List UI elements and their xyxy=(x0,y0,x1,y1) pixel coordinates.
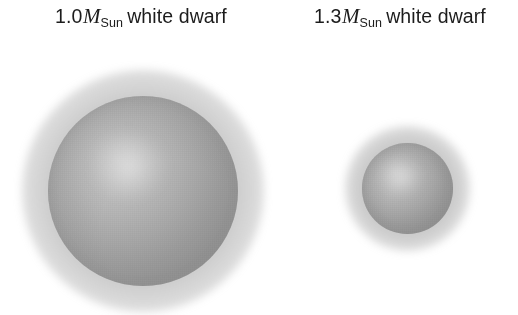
star-highlight-large xyxy=(92,134,166,198)
object-text-small: white dwarf xyxy=(383,5,486,27)
star-highlight-small xyxy=(382,160,420,193)
mass-subscript-large: Sun xyxy=(101,16,125,30)
white-dwarf-small xyxy=(362,143,453,234)
mass-value-large: 1.0 xyxy=(55,5,82,27)
mass-symbol-large: M xyxy=(83,4,101,28)
mass-value-small: 1.3 xyxy=(314,5,341,27)
white-dwarf-large xyxy=(48,96,238,286)
mass-symbol-small: M xyxy=(342,4,360,28)
mass-subscript-small: Sun xyxy=(360,16,384,30)
white-dwarf-comparison-figure: 1.0MSunwhite dwarf 1.3MSunwhite dwarf xyxy=(0,0,518,315)
label-white-dwarf-small: 1.3MSunwhite dwarf xyxy=(282,6,518,30)
label-white-dwarf-large: 1.0MSunwhite dwarf xyxy=(0,6,282,30)
object-text-large: white dwarf xyxy=(124,5,227,27)
